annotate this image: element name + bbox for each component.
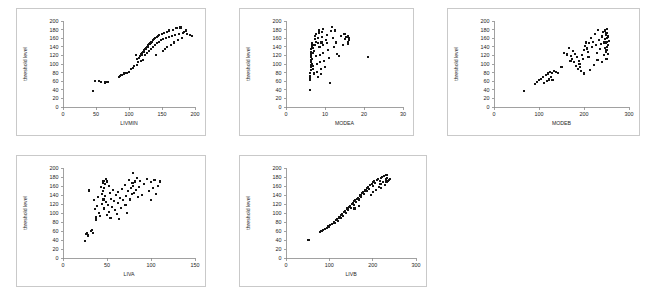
data-point (385, 174, 387, 176)
data-point (340, 35, 342, 37)
y-tick-label: 20 (276, 246, 282, 252)
data-point (313, 50, 315, 52)
data-point (95, 219, 97, 221)
x-tick-label: 200 (191, 111, 200, 117)
data-point (355, 201, 357, 203)
data-point (318, 46, 320, 48)
x-axis-title: LIVB (345, 271, 357, 277)
y-tick-label: 80 (484, 70, 490, 76)
y-tick-label: 160 (273, 35, 282, 41)
data-point (584, 45, 586, 47)
scatter-panel-modeb: 0204060801001201401601802000100200300MOD… (447, 8, 640, 136)
data-point (185, 29, 187, 31)
x-tick-label: 150 (158, 111, 167, 117)
data-point (97, 196, 99, 198)
data-point (314, 38, 316, 40)
data-point (94, 208, 96, 210)
data-point (605, 49, 607, 51)
data-point (140, 60, 142, 62)
data-point (315, 33, 317, 35)
data-point (367, 186, 369, 188)
scatter-plot-matrix-figure: 020406080100120140160180200050100150200L… (0, 0, 649, 293)
y-tick-label: 0 (279, 104, 282, 110)
data-point (360, 196, 362, 198)
data-point (108, 185, 110, 187)
y-tick-label: 160 (50, 183, 59, 189)
data-point (362, 191, 364, 193)
data-point (109, 217, 111, 219)
data-point (84, 240, 86, 242)
data-point (146, 52, 148, 54)
y-tick-label: 160 (273, 183, 282, 189)
data-point (575, 65, 577, 67)
data-point (345, 36, 347, 38)
y-tick-label: 0 (279, 255, 282, 261)
data-point (105, 178, 107, 180)
data-point (327, 49, 329, 51)
data-point (100, 81, 102, 83)
data-point (162, 38, 164, 40)
data-point (320, 41, 322, 43)
data-point (159, 180, 161, 182)
data-point (110, 198, 112, 200)
y-tick-label: 120 (50, 201, 59, 207)
data-point (315, 41, 317, 43)
data-point (607, 44, 609, 46)
y-axis-title: threshold level (245, 196, 251, 229)
data-point (102, 198, 104, 200)
y-tick-label: 100 (273, 61, 282, 67)
data-point (177, 39, 179, 41)
data-point (353, 207, 355, 209)
x-tick-label: 10 (322, 111, 328, 117)
data-point (133, 192, 135, 194)
data-point (150, 48, 152, 50)
data-point (172, 29, 174, 31)
data-point (534, 83, 536, 85)
data-point (326, 227, 328, 229)
data-point (590, 37, 592, 39)
data-point (309, 75, 311, 77)
data-point (374, 182, 376, 184)
y-tick-label: 20 (53, 95, 59, 101)
data-point (371, 183, 373, 185)
data-point (311, 58, 313, 60)
data-point (604, 29, 606, 31)
data-point (130, 187, 132, 189)
data-point (585, 41, 587, 43)
y-tick-label: 180 (273, 27, 282, 33)
data-point (586, 47, 588, 49)
data-point (331, 223, 333, 225)
data-point (103, 207, 105, 209)
y-tick-label: 180 (273, 174, 282, 180)
data-point (142, 59, 144, 61)
data-series (523, 28, 611, 92)
x-tick-label: 30 (400, 111, 406, 117)
data-point (179, 26, 181, 28)
data-point (594, 33, 596, 35)
data-point (373, 180, 375, 182)
x-tick-label: 300 (625, 111, 634, 117)
y-tick-label: 60 (53, 78, 59, 84)
scatter-panel-modea: 0204060801001201401601802000102030MODEAt… (239, 8, 414, 136)
data-point (550, 76, 552, 78)
x-axis-title: LIVA (124, 271, 135, 277)
data-series (309, 26, 369, 91)
y-tick-label: 40 (53, 237, 59, 243)
y-tick-label: 40 (276, 237, 282, 243)
data-point (370, 194, 372, 196)
y-tick-label: 80 (53, 219, 59, 225)
data-point (549, 71, 551, 73)
data-point (126, 72, 128, 74)
data-point (122, 199, 124, 201)
data-point (538, 79, 540, 81)
data-point (317, 76, 319, 78)
data-point (92, 90, 94, 92)
data-point (189, 34, 191, 36)
data-point (560, 66, 562, 68)
data-point (573, 61, 575, 63)
data-point (314, 35, 316, 37)
data-point (378, 186, 380, 188)
data-point (152, 46, 154, 48)
data-point (106, 180, 108, 182)
data-point (577, 68, 579, 70)
